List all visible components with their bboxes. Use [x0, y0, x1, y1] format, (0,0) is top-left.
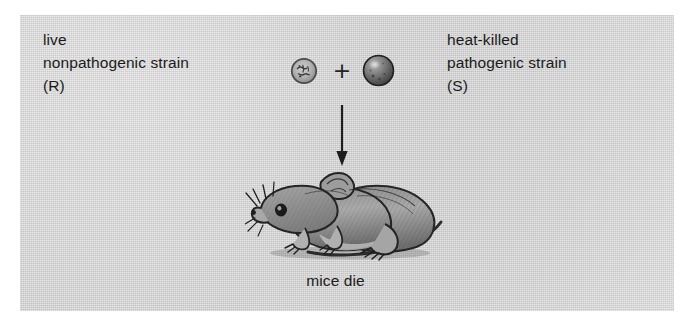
smooth-bacterial-cell-icon — [362, 54, 395, 87]
down-arrow-icon — [333, 105, 351, 167]
right-label-line-2: pathogenic strain — [447, 51, 567, 74]
right-label-line-1: heat-killed — [447, 28, 567, 51]
rough-bacterial-cell-icon — [290, 57, 318, 85]
right-label-line-3: (S) — [447, 74, 567, 97]
left-label-line-3: (R) — [43, 74, 189, 97]
figure-root: live nonpathogenic strain (R) heat-kille… — [0, 0, 691, 328]
right-strain-label: heat-killed pathogenic strain (S) — [447, 28, 567, 97]
left-strain-label: live nonpathogenic strain (R) — [43, 28, 189, 97]
plus-operator: + — [332, 61, 352, 81]
dead-mouse-illustration — [245, 160, 450, 268]
caption-text: mice die — [306, 272, 365, 289]
caption: mice die — [0, 272, 691, 290]
left-label-line-2: nonpathogenic strain — [43, 51, 189, 74]
left-label-line-1: live — [43, 28, 189, 51]
